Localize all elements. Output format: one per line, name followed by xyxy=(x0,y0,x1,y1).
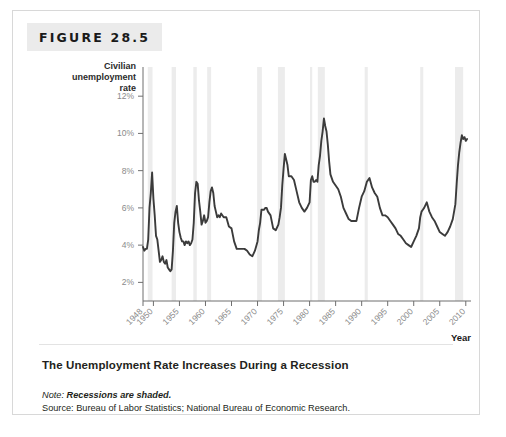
x-axis-tick-label: 1995 xyxy=(369,306,390,327)
unemployment-rate-line xyxy=(143,119,467,272)
x-axis-tick-labels: 1948195019551960196519701975198019851990… xyxy=(124,301,467,327)
x-axis-tick-label: 1965 xyxy=(212,306,233,327)
y-axis-tick-label: 2% xyxy=(122,277,135,287)
figure-label-text: FIGURE 28.5 xyxy=(39,30,150,45)
x-axis-tick-label: 1955 xyxy=(160,306,181,327)
chart-svg: 2%4%6%8%10%12% 1948195019551960196519701… xyxy=(13,59,479,344)
x-axis-tick-label: 2000 xyxy=(395,306,416,327)
y-axis-tick-label: 6% xyxy=(122,203,135,213)
note-emphasis: Recessions are shaded. xyxy=(67,390,172,400)
y-axis-title-line: unemployment xyxy=(72,72,136,82)
caption-divider xyxy=(39,344,453,345)
y-axis-tick-label: 10% xyxy=(117,128,134,138)
x-axis-tick-label: 1975 xyxy=(265,306,286,327)
x-axis-tick-label: 1985 xyxy=(317,306,338,327)
x-axis-tick-label: 2010 xyxy=(447,306,468,327)
recession-band xyxy=(318,67,325,301)
unemployment-line-series xyxy=(143,119,467,272)
recession-bands-group xyxy=(148,67,463,301)
note-label: Note: xyxy=(42,390,64,400)
y-axis-title-line: Civilian xyxy=(104,61,136,71)
unemployment-rate-chart: 2%4%6%8%10%12% 1948195019551960196519701… xyxy=(13,59,479,344)
x-axis-title-text: Year xyxy=(451,332,471,343)
y-axis-tick-labels: 2%4%6%8%10%12% xyxy=(117,91,143,287)
y-axis-tick-label: 8% xyxy=(122,166,135,176)
x-axis-title: Year xyxy=(451,332,471,343)
recession-band xyxy=(278,67,285,301)
y-axis-tick-label: 4% xyxy=(122,240,135,250)
x-axis-tick-label: 2005 xyxy=(421,306,442,327)
recession-band xyxy=(420,67,423,301)
figure-note: Note: Recessions are shaded. xyxy=(42,390,456,400)
y-axis-title: Civilianunemploymentrate xyxy=(72,61,136,93)
figure-source: Source: Bureau of Labor Statistics; Nati… xyxy=(42,403,456,413)
recession-band xyxy=(207,67,211,301)
figure-label-badge: FIGURE 28.5 xyxy=(27,23,162,51)
y-axis-title-line: rate xyxy=(119,83,136,93)
x-axis-tick-label: 1980 xyxy=(291,306,312,327)
x-axis-tick-label: 1970 xyxy=(239,306,260,327)
recession-band xyxy=(257,67,262,301)
x-axis-tick-label: 1960 xyxy=(186,306,207,327)
x-axis-tick-label: 1990 xyxy=(343,306,364,327)
figure-caption: The Unemployment Rate Increases During a… xyxy=(42,359,452,371)
figure-card: FIGURE 28.5 2%4%6%8%10%12% 1948195019551… xyxy=(12,10,480,415)
